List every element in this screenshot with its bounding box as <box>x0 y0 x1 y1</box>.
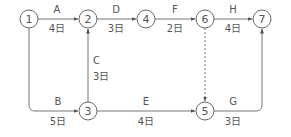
edge-e-name: E <box>143 96 149 107</box>
edge-c-name: C <box>93 55 100 66</box>
node-4: 4 <box>137 10 155 28</box>
node-3-label: 3 <box>85 105 92 118</box>
node-6: 6 <box>196 10 214 28</box>
node-7-label: 7 <box>259 13 266 26</box>
node-2: 2 <box>79 10 97 28</box>
edge-d-duration: 3日 <box>108 23 124 34</box>
arrow-diagram: 1 2 4 6 7 3 5 A 4日 D 3日 F 2日 H 4日 B 5日 C… <box>0 0 291 137</box>
edge-e-duration: 4日 <box>138 116 154 127</box>
edge-a-duration: 4日 <box>49 23 65 34</box>
node-7: 7 <box>253 10 271 28</box>
node-1-label: 1 <box>26 13 33 26</box>
edge-b-name: B <box>55 96 62 107</box>
edge-f-duration: 2日 <box>167 23 183 34</box>
node-5-label: 5 <box>202 105 209 118</box>
node-4-label: 4 <box>143 13 150 26</box>
edge-g-name: G <box>229 96 237 107</box>
edge-g-duration: 3日 <box>225 116 241 127</box>
edge-b-duration: 5日 <box>50 116 66 127</box>
edge-a-name: A <box>54 4 61 15</box>
node-3: 3 <box>79 102 97 120</box>
node-5: 5 <box>196 102 214 120</box>
edge-c-duration: 3日 <box>93 71 109 82</box>
edge-h-name: H <box>229 4 237 15</box>
node-2-label: 2 <box>85 13 92 26</box>
edge-b <box>29 28 78 111</box>
edge-g <box>214 29 262 111</box>
edge-d-name: D <box>112 4 120 15</box>
node-1: 1 <box>20 10 38 28</box>
node-6-label: 6 <box>202 13 209 26</box>
edge-f-name: F <box>172 4 178 15</box>
edge-h-duration: 4日 <box>225 23 241 34</box>
